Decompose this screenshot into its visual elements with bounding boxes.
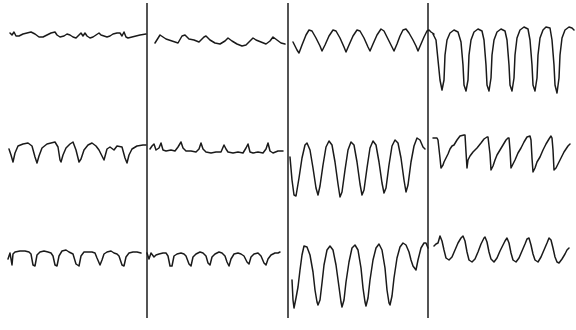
waveform-traces [8, 27, 574, 308]
waveform-trace-col1-row2 [9, 142, 146, 163]
waveform-grid [0, 0, 576, 330]
waveform-trace-col3-row3 [292, 243, 428, 308]
waveform-trace-col1-row3 [8, 250, 141, 266]
waveform-trace-col4-row1 [433, 27, 574, 93]
waveform-trace-col3-row2 [290, 138, 425, 197]
waveform-trace-col1-row1 [10, 32, 146, 38]
waveform-figure: Grid of waveform traces: 4 panels (colum… [0, 0, 576, 330]
waveform-trace-col4-row3 [434, 236, 569, 263]
waveform-trace-col2-row2 [150, 142, 283, 153]
waveform-trace-col4-row2 [433, 135, 570, 172]
waveform-trace-col3-row1 [293, 29, 434, 53]
waveform-trace-col2-row1 [155, 35, 285, 46]
waveform-trace-col2-row3 [147, 252, 280, 266]
